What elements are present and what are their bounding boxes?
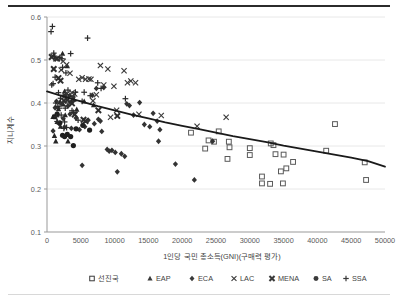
data-point	[203, 146, 208, 151]
data-point	[157, 127, 162, 133]
data-point	[92, 121, 97, 127]
data-point	[69, 125, 74, 131]
legend-item-MENA[interactable]: MENA	[269, 274, 299, 283]
x-tick-label: 45000	[341, 236, 361, 245]
legend-label: LAC	[240, 274, 254, 283]
data-point	[260, 181, 265, 186]
legend-marker-circle-filled	[314, 276, 319, 281]
data-point	[108, 115, 113, 120]
data-point	[260, 174, 265, 179]
x-tick-label: 20000	[172, 236, 192, 245]
legend-item-LAC[interactable]: LAC	[232, 274, 255, 283]
data-point	[81, 89, 87, 95]
data-point	[364, 178, 369, 183]
data-point	[247, 153, 252, 158]
data-point	[225, 157, 230, 162]
data-point	[268, 181, 273, 186]
series-MENA	[49, 54, 120, 123]
data-point	[115, 169, 120, 175]
data-point	[189, 130, 194, 135]
data-point	[50, 24, 56, 30]
data-point	[49, 82, 55, 88]
x-axis-title: 1인당 국민 총소득(GNI)(구매력 평가)	[163, 252, 280, 261]
legend-label: SA	[322, 274, 332, 283]
legend-item-ECA[interactable]: ECA	[190, 274, 214, 283]
x-tick-label: 10000	[104, 236, 124, 245]
legend-marker-diamond-filled	[190, 276, 195, 282]
legend-item-SSA[interactable]: SSA	[343, 274, 366, 283]
data-point	[111, 84, 116, 89]
data-point	[98, 63, 103, 68]
data-point	[281, 181, 286, 186]
data-point	[137, 100, 142, 106]
data-point	[281, 152, 286, 157]
legend-label: ECA	[198, 274, 213, 283]
data-point	[50, 81, 56, 87]
x-tick-label: 30000	[240, 236, 260, 245]
data-point	[73, 126, 78, 131]
data-point	[105, 66, 110, 71]
legend-marker-square-open	[90, 276, 95, 281]
legend-label: EAP	[156, 274, 171, 283]
y-tick-label: 0.1	[31, 228, 41, 237]
data-point	[147, 124, 152, 130]
data-point	[206, 138, 211, 143]
legend-item-EAP[interactable]: EAP	[147, 274, 170, 283]
data-point	[159, 113, 164, 118]
legend-item-SA[interactable]: SA	[314, 274, 332, 283]
gridlines	[47, 17, 385, 189]
legend-label: 선진국	[98, 274, 119, 283]
x-axis-tick-labels: 0500010000150002000025000300003500040000…	[45, 236, 395, 245]
x-tick-label: 40000	[307, 236, 327, 245]
data-point	[48, 29, 54, 35]
x-tick-label: 0	[45, 236, 49, 245]
data-point	[278, 169, 283, 174]
data-point	[226, 139, 231, 144]
data-point	[333, 122, 338, 127]
scatter-chart: 0.10.20.30.40.50.6 050001000015000200002…	[0, 0, 398, 306]
data-point	[85, 35, 91, 41]
legend-marker-plus	[343, 276, 349, 282]
data-point	[51, 66, 56, 71]
x-tick-label: 35000	[273, 236, 293, 245]
data-point	[192, 177, 197, 183]
y-tick-label: 0.6	[31, 13, 41, 22]
y-tick-label: 0.5	[31, 56, 41, 65]
data-point	[123, 96, 129, 102]
series-선진국	[189, 122, 369, 187]
data-point	[50, 128, 55, 134]
data-point	[55, 112, 60, 117]
data-point	[121, 68, 126, 73]
data-point	[52, 133, 57, 138]
y-axis-title: 지니계수	[6, 116, 15, 144]
data-point	[68, 134, 73, 139]
x-tick-label: 5000	[73, 236, 89, 245]
x-tick-label: 50000	[375, 236, 395, 245]
legend-item-선진국[interactable]: 선진국	[90, 274, 119, 283]
chart-legend: 선진국EAPECALACMENASASSA	[90, 274, 367, 283]
data-point	[65, 138, 70, 143]
legend-marker-triangle-filled	[147, 276, 152, 281]
legend-label: MENA	[278, 274, 299, 283]
data-point	[133, 80, 138, 85]
data-point	[96, 108, 101, 113]
y-tick-label: 0.3	[31, 142, 41, 151]
data-point	[95, 80, 101, 86]
data-point	[142, 122, 147, 128]
data-point	[87, 127, 92, 132]
data-point	[151, 110, 156, 116]
figure-container: 0.10.20.30.40.50.6 050001000015000200002…	[0, 0, 398, 306]
data-point	[80, 162, 85, 168]
x-tick-label: 15000	[138, 236, 158, 245]
data-point	[53, 138, 58, 143]
data-point	[173, 161, 178, 167]
data-point	[291, 160, 296, 165]
y-tick-label: 0.4	[31, 99, 41, 108]
legend-label: SSA	[352, 274, 367, 283]
data-point	[94, 92, 99, 97]
y-axis-tick-labels: 0.10.20.30.40.50.6	[31, 13, 41, 237]
x-tick-label: 25000	[206, 236, 226, 245]
data-point	[94, 85, 99, 91]
data-point	[224, 115, 229, 120]
legend-marker-x	[232, 276, 237, 281]
